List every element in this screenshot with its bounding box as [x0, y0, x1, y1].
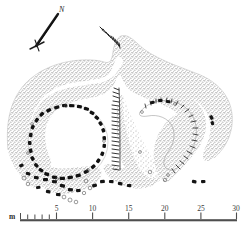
scale-tick-label-5: 5 [55, 204, 59, 213]
plan-drawing: N m 5 10 15 20 25 30 [0, 0, 245, 231]
east-inner-hollow-bank [154, 110, 206, 183]
scale-bar-major-ticks [57, 213, 237, 220]
north-arrow: N [30, 5, 65, 51]
scale-bar-unit-label: m [9, 212, 16, 221]
scale-tick-label-10: 10 [89, 204, 97, 213]
scale-bar: m 5 10 15 20 25 30 [9, 204, 240, 221]
scale-bar-rule [20, 219, 237, 221]
north-arrow-label: N [58, 5, 65, 14]
scale-tick-label-15: 15 [125, 204, 133, 213]
scale-bar-minor-ticks [21, 213, 50, 219]
scale-tick-label-30: 30 [232, 204, 240, 213]
site-plan-figure: N m 5 10 15 20 25 30 [0, 0, 245, 231]
scale-tick-label-20: 20 [161, 204, 169, 213]
scale-tick-label-25: 25 [197, 204, 205, 213]
